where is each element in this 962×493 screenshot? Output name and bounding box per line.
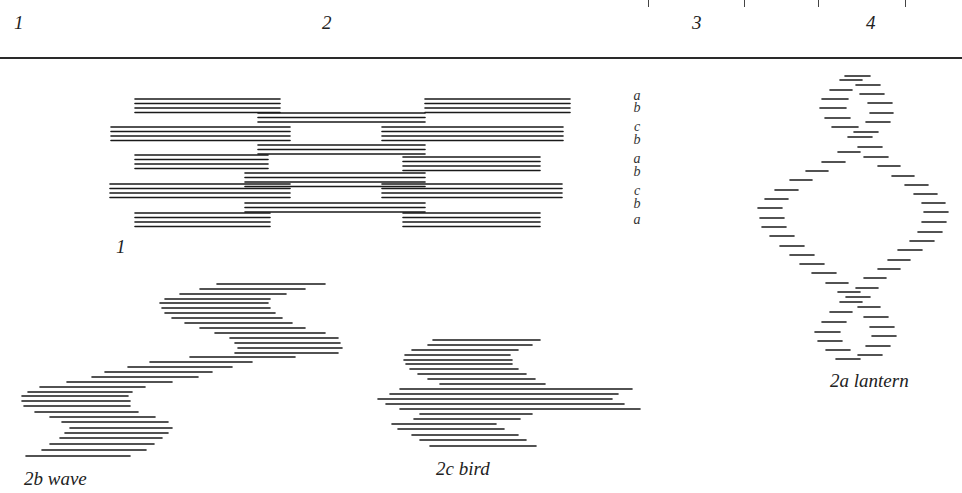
figure-2c-label: 2c bird xyxy=(436,458,490,480)
row-label: a xyxy=(630,154,644,164)
figure-2a-label: 2a lantern xyxy=(830,370,909,392)
figure-1-label: 1 xyxy=(116,236,126,258)
figure-1-stitch-pattern xyxy=(0,0,962,493)
row-label: c xyxy=(630,186,644,196)
row-label: c xyxy=(630,122,644,132)
row-label: b xyxy=(630,167,644,177)
row-label: a xyxy=(630,215,644,225)
row-label: b xyxy=(630,199,644,209)
row-label: b xyxy=(630,135,644,145)
figure-2b-label: 2b wave xyxy=(24,468,87,490)
row-label: b xyxy=(630,103,644,113)
